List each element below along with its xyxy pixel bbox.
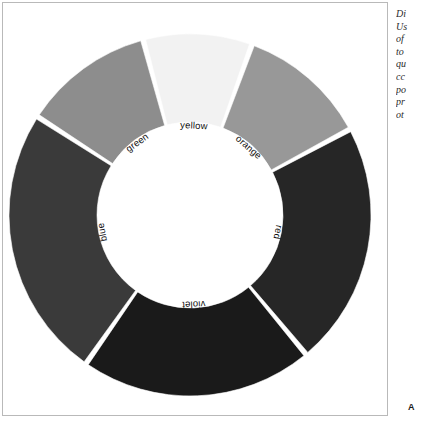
caption-line: pr — [396, 96, 422, 109]
figure-root: yelloworangeredvioletbluegreen Di Us of … — [0, 0, 422, 421]
caption-line: to — [396, 46, 422, 59]
caption-line: qu — [396, 58, 422, 71]
donut-label-violet: violet — [182, 299, 206, 311]
donut-label-red: red — [272, 224, 286, 240]
donut-chart[interactable]: yelloworangeredvioletbluegreen — [3, 3, 389, 417]
chart-plate: yelloworangeredvioletbluegreen — [2, 2, 388, 416]
panel-letter: A — [408, 402, 415, 412]
figure-caption: Di Us of to qu cc po pr ot — [396, 8, 422, 121]
caption-line: ot — [396, 109, 422, 122]
donut-slice-group — [9, 34, 371, 396]
caption-line: cc — [396, 71, 422, 84]
caption-line: of — [396, 33, 422, 46]
caption-line: Us — [396, 21, 422, 34]
donut-label-blue: blue — [94, 222, 108, 243]
caption-line: Di — [396, 8, 422, 21]
donut-label-yellow: yellow — [180, 119, 208, 131]
caption-line: po — [396, 84, 422, 97]
